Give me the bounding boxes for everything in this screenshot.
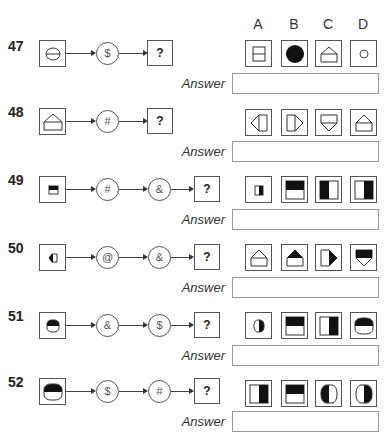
rectangle-with-line-icon (249, 44, 269, 64)
option-c[interactable] (315, 176, 342, 203)
small-circle-icon (354, 44, 374, 64)
option-b[interactable] (281, 176, 308, 203)
answer-label: Answer (182, 280, 225, 295)
option-a[interactable] (245, 244, 272, 271)
small-square-right-black-icon (249, 180, 269, 200)
house-pentagon-icon (43, 112, 63, 132)
rounded-left-black-icon (319, 384, 339, 404)
operator-ampersand: & (148, 246, 171, 269)
square-right-black-icon (319, 316, 339, 336)
option-d[interactable] (350, 244, 377, 271)
option-c[interactable] (315, 380, 342, 407)
start-shape-box (39, 176, 66, 203)
operator-ampersand: & (148, 178, 171, 201)
filled-circle-icon (285, 44, 305, 64)
option-a[interactable] (245, 380, 272, 407)
option-d[interactable] (350, 109, 377, 136)
square-top-black-icon (285, 384, 305, 404)
option-b[interactable] (281, 109, 308, 136)
pentagon-left-icon (249, 113, 269, 133)
option-c[interactable] (315, 312, 342, 339)
operator-dollar: $ (96, 380, 119, 403)
question-number: 49 (8, 172, 24, 188)
option-c[interactable] (315, 109, 342, 136)
start-shape-box (39, 312, 66, 339)
unknown-box: ? (194, 244, 220, 270)
option-a[interactable] (245, 312, 272, 339)
operator-dollar: $ (148, 314, 171, 337)
operator-ampersand: & (96, 314, 119, 337)
option-header-a: A (245, 16, 271, 32)
pentagon-down-icon (319, 113, 339, 133)
option-b[interactable] (281, 312, 308, 339)
option-b[interactable] (281, 244, 308, 271)
question-number: 51 (8, 308, 24, 324)
operator-dollar: $ (96, 42, 119, 65)
answer-input-51[interactable] (232, 345, 379, 366)
answer-label: Answer (182, 212, 225, 227)
square-right-black-icon (249, 384, 269, 404)
answer-input-47[interactable] (232, 73, 379, 94)
option-b[interactable] (281, 380, 308, 407)
option-a[interactable] (245, 176, 272, 203)
operator-hash: # (148, 380, 171, 403)
circle-with-line-icon (44, 45, 62, 63)
start-shape-box (39, 108, 66, 135)
answer-label: Answer (182, 76, 225, 91)
unknown-box: ? (194, 312, 220, 338)
option-d[interactable] (350, 312, 377, 339)
option-header-b: B (281, 16, 307, 32)
house-pentagon-icon (354, 113, 374, 133)
option-c[interactable] (315, 40, 342, 67)
rounded-top-black-icon (354, 316, 374, 336)
operator-hash: # (96, 110, 119, 133)
option-a[interactable] (245, 109, 272, 136)
square-top-black-icon (44, 181, 62, 199)
house-pentagon-top-black-icon (285, 248, 305, 268)
start-shape-box (39, 244, 66, 271)
operator-at: @ (96, 246, 119, 269)
option-d[interactable] (350, 176, 377, 203)
answer-label: Answer (182, 348, 225, 363)
option-d[interactable] (350, 380, 377, 407)
square-right-black-icon (354, 180, 374, 200)
pentagon-right-black-icon (319, 248, 339, 268)
answer-input-49[interactable] (232, 209, 379, 230)
house-pentagon-icon (319, 44, 339, 64)
rounded-top-black-icon (44, 317, 62, 335)
answer-input-48[interactable] (232, 141, 379, 162)
operator-hash: # (96, 178, 119, 201)
square-top-black-icon (285, 316, 305, 336)
option-b[interactable] (281, 40, 308, 67)
option-d[interactable] (350, 40, 377, 67)
question-number: 50 (8, 240, 24, 256)
option-header-c: C (315, 16, 341, 32)
option-header-d: D (350, 16, 376, 32)
question-number: 52 (8, 374, 24, 390)
unknown-box: ? (194, 176, 220, 202)
answer-label: Answer (182, 144, 225, 159)
answer-label: Answer (182, 414, 225, 429)
answer-input-50[interactable] (232, 277, 379, 298)
option-c[interactable] (315, 244, 342, 271)
square-top-black-icon (285, 180, 305, 200)
start-shape-box (39, 40, 66, 67)
pentagon-down-black-icon (354, 248, 374, 268)
question-number: 47 (8, 38, 24, 54)
unknown-box: ? (194, 378, 220, 404)
house-pentagon-icon (249, 248, 269, 268)
small-rounded-right-black-icon (249, 316, 269, 336)
unknown-box: ? (147, 108, 173, 134)
start-shape-box (39, 378, 66, 405)
rounded-top-black-icon (43, 382, 63, 402)
question-number: 48 (8, 104, 24, 120)
pentagon-left-black-icon (44, 249, 62, 267)
rounded-right-black-icon (354, 384, 374, 404)
square-left-black-icon (319, 180, 339, 200)
unknown-box: ? (147, 40, 173, 66)
pentagon-right-icon (285, 113, 305, 133)
option-a[interactable] (245, 40, 272, 67)
answer-input-52[interactable] (232, 411, 379, 432)
